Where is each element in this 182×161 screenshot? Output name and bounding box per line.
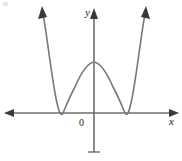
graph-figure: y x 0 xyxy=(0,0,182,161)
origin-label: 0 xyxy=(79,118,84,128)
curve-right-arrow-icon xyxy=(141,6,150,19)
x-axis-label: x xyxy=(169,116,174,127)
y-axis-up-arrow-icon xyxy=(90,8,98,19)
coordinate-plane-svg xyxy=(0,0,182,161)
curve-left-arrow-icon xyxy=(38,6,47,19)
x-axis-left-arrow-icon xyxy=(4,109,14,117)
y-axis-label: y xyxy=(85,7,90,18)
